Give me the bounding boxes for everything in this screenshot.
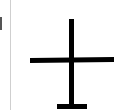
canvas (0, 0, 117, 110)
cross-with-base-icon (0, 0, 117, 110)
